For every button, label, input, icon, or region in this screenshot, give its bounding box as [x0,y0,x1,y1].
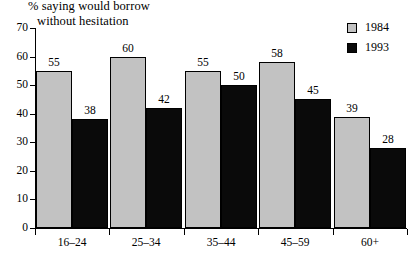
y-axis-tick [30,142,35,143]
x-axis-group-tick [184,229,185,235]
bar-value-label: 55 [185,57,221,69]
bar-value-label: 45 [295,85,331,97]
bar-value-label: 50 [221,71,257,83]
y-axis-label: 70 [0,22,28,34]
bar-value-label: 60 [110,43,146,55]
bar-chart: % saying would borrow without hesitation… [0,0,415,254]
bar-value-label: 42 [146,94,182,106]
legend-label-1984: 1984 [365,20,389,35]
legend-swatch-1993 [347,43,357,53]
y-axis-label: 50 [0,79,28,91]
bar-1993-60+[interactable] [370,148,406,228]
bar-value-label: 38 [72,105,108,117]
bar-1993-16–24[interactable] [72,119,108,228]
bar-1993-35–44[interactable] [221,85,257,228]
x-axis-line [35,228,407,229]
x-axis-category-label: 45–59 [258,236,332,249]
x-axis-group-tick [109,229,110,235]
bar-1984-45–59[interactable] [259,62,295,228]
bar-value-label: 58 [259,48,295,60]
chart-title: % saying would borrow without hesitation [28,0,150,29]
x-axis-category-label: 16–24 [35,236,109,249]
chart-title-line-1: % saying would borrow [28,0,150,13]
x-axis-end-cap [35,229,36,235]
x-axis-group-tick [333,229,334,235]
y-axis-label: 0 [0,222,28,234]
bar-value-label: 28 [370,134,406,146]
legend-label-1993: 1993 [365,40,389,55]
chart-title-line-2: without hesitation [28,14,150,29]
y-axis-label: 20 [0,165,28,177]
x-axis-category-label: 25–34 [109,236,183,249]
bar-1993-45–59[interactable] [295,99,331,228]
y-axis-tick [30,171,35,172]
y-axis-label: 40 [0,108,28,120]
y-axis-tick [30,85,35,86]
bar-1984-25–34[interactable] [110,57,146,228]
y-axis-label: 60 [0,51,28,63]
bar-1984-60+[interactable] [334,117,370,228]
x-axis-category-label: 35–44 [184,236,258,249]
bar-value-label: 55 [36,57,72,69]
bar-1984-35–44[interactable] [185,71,221,228]
y-axis-label: 30 [0,136,28,148]
x-axis-group-tick [258,229,259,235]
y-axis-tick [30,28,35,29]
x-axis-category-label: 60+ [333,236,407,249]
y-axis-tick [30,114,35,115]
y-axis-label: 10 [0,193,28,205]
legend-swatch-1984 [347,23,357,33]
y-axis-tick [30,57,35,58]
bar-value-label: 39 [334,103,370,115]
x-axis-end-cap [407,229,408,235]
y-axis-tick [30,199,35,200]
bar-1993-25–34[interactable] [146,108,182,228]
bar-1984-16–24[interactable] [36,71,72,228]
